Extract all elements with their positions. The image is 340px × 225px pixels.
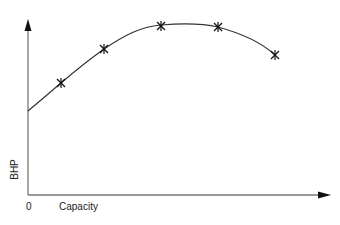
x-axis-label: Capacity bbox=[59, 201, 98, 212]
y-axis-label: BHP bbox=[9, 159, 20, 180]
asterisk-marker-icon bbox=[100, 44, 108, 54]
bhp-capacity-chart bbox=[0, 0, 340, 225]
asterisk-marker-icon bbox=[57, 78, 65, 88]
origin-label: 0 bbox=[26, 201, 32, 212]
asterisk-marker-icon bbox=[157, 21, 165, 31]
asterisk-marker-icon bbox=[271, 50, 279, 60]
y-axis-arrow-icon bbox=[25, 19, 32, 31]
x-axis-arrow-icon bbox=[318, 192, 331, 199]
data-markers bbox=[57, 21, 279, 88]
bhp-curve bbox=[28, 24, 275, 111]
